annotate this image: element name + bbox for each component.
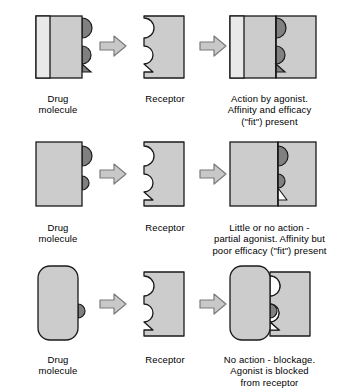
drug-molecule-partial-agonist bbox=[16, 130, 102, 216]
arrow-receptor-to-complex bbox=[198, 0, 228, 86]
bump-semicircle-triangle-icon bbox=[82, 46, 91, 72]
block-arrow-right-icon bbox=[98, 130, 128, 216]
drug-molecule-antagonist bbox=[16, 258, 102, 350]
bump-small-semicircle-icon bbox=[78, 304, 85, 318]
receptor-agonist bbox=[126, 0, 202, 86]
diagram-row-partial-agonist: Drug molecule Receptor Little or no acti… bbox=[0, 130, 341, 258]
block-arrow-right-icon bbox=[198, 258, 228, 350]
receptor-partial-agonist bbox=[126, 130, 202, 216]
blocked-complex-shape bbox=[226, 258, 330, 350]
block-arrow-right-icon bbox=[98, 0, 128, 86]
block-arrow-right-icon bbox=[198, 130, 228, 216]
receptor-antagonist bbox=[126, 258, 202, 350]
outcome-caption-partial-agonist: Little or no action - partial agonist. A… bbox=[198, 222, 341, 256]
bump-small-semicircle-icon bbox=[82, 176, 89, 190]
drug-molecule-shape bbox=[16, 258, 102, 350]
drug-molecule-shape bbox=[16, 0, 102, 86]
drug-receptor-diagram: Drug molecule Receptor Action by agonist… bbox=[0, 0, 341, 392]
receptor-label: Receptor bbox=[122, 222, 208, 233]
receptor-shape bbox=[126, 0, 202, 86]
drug-body-rounded bbox=[38, 266, 78, 340]
drug-light-strip bbox=[36, 16, 50, 78]
drug-label: Drug molecule bbox=[8, 93, 108, 116]
receptor-shape bbox=[126, 130, 202, 216]
complex-partial-agonist bbox=[226, 130, 330, 216]
drug-light-strip bbox=[230, 16, 244, 78]
receptor-label: Receptor bbox=[122, 354, 208, 365]
complex-antagonist bbox=[226, 258, 330, 350]
arrow-drug-to-receptor bbox=[98, 0, 128, 86]
arrow-receptor-to-complex bbox=[198, 258, 228, 350]
arrow-drug-to-receptor bbox=[98, 258, 128, 350]
drug-receptor-complex-shape bbox=[226, 130, 330, 216]
drug-body bbox=[230, 142, 278, 206]
receptor-body bbox=[144, 16, 184, 78]
receptor-shape bbox=[126, 258, 202, 350]
diagram-row-antagonist: Drug molecule Receptor No action - block… bbox=[0, 258, 341, 392]
complex-agonist bbox=[226, 0, 330, 86]
arrow-drug-to-receptor bbox=[98, 130, 128, 216]
drug-molecule-shape bbox=[16, 130, 102, 216]
drug-body-rounded bbox=[230, 266, 270, 340]
receptor-body bbox=[144, 272, 184, 336]
block-arrow-right-icon bbox=[98, 258, 128, 350]
diagram-row-agonist: Drug molecule Receptor Action by agonist… bbox=[0, 0, 341, 130]
drug-label: Drug molecule bbox=[8, 222, 108, 245]
drug-molecule-agonist bbox=[16, 0, 102, 86]
outcome-caption-antagonist: No action - blockage. Agonist is blocked… bbox=[198, 354, 341, 388]
block-arrow-right-icon bbox=[198, 0, 228, 86]
receptor-body bbox=[144, 142, 184, 206]
bump-semicircle-icon bbox=[82, 146, 92, 166]
arrow-receptor-to-complex bbox=[198, 130, 228, 216]
bump-semicircle-icon bbox=[82, 18, 92, 38]
drug-receptor-complex-shape bbox=[226, 0, 330, 86]
outcome-caption-agonist: Action by agonist. Affinity and efficacy… bbox=[198, 93, 341, 127]
drug-body bbox=[36, 142, 82, 206]
receptor-label: Receptor bbox=[122, 93, 208, 104]
drug-label: Drug molecule bbox=[8, 354, 108, 377]
